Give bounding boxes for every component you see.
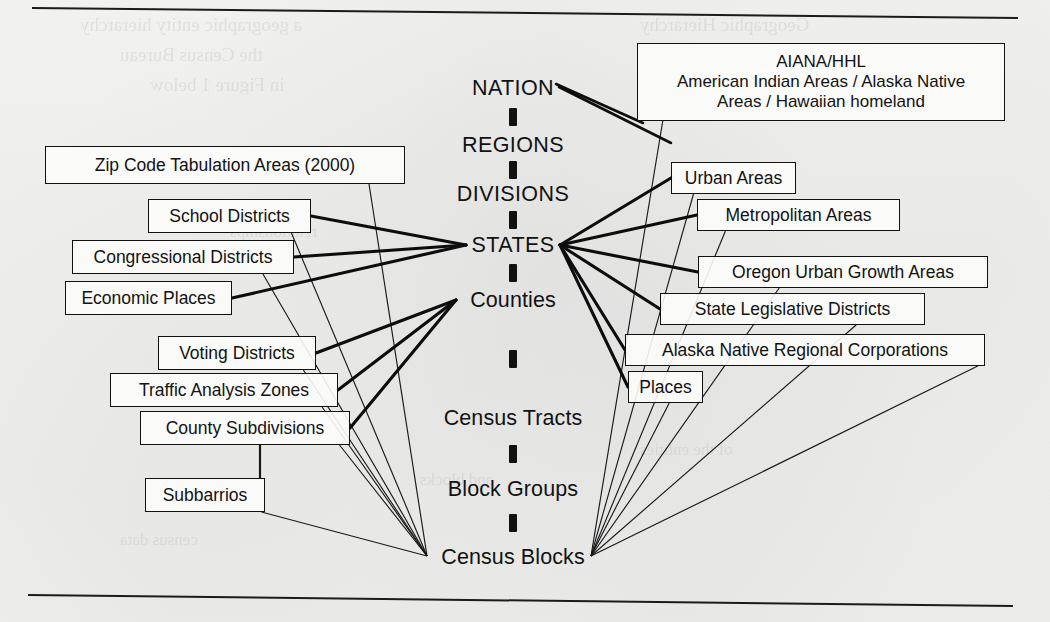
spine-dash-census_tracts-to-block_groups <box>509 445 517 463</box>
entity-box-label: Metropolitan Areas <box>726 205 872 226</box>
entity-box-congressional_districts: Congressional Districts <box>72 240 294 274</box>
spine-dash-block_groups-to-census_blocks <box>509 514 517 532</box>
hierarchy-level-states: STATES <box>472 233 555 258</box>
entity-box-economic_places: Economic Places <box>65 281 232 315</box>
spine-dash-regions-to-divisions <box>509 161 517 179</box>
hierarchy-level-census_tracts: Census Tracts <box>444 406 583 431</box>
entity-box-label: County Subdivisions <box>166 418 325 439</box>
hierarchy-level-nation: NATION <box>472 76 554 101</box>
entity-box-label: Traffic Analysis Zones <box>139 380 309 401</box>
entity-box-aiana_hhl: AIANA/HHLAmerican Indian Areas / Alaska … <box>637 43 1005 121</box>
entity-box-traffic_analysis_zones: Traffic Analysis Zones <box>110 373 338 407</box>
hierarchy-level-census_blocks: Census Blocks <box>441 545 585 570</box>
entity-box-label: Subbarrios <box>163 485 248 506</box>
entity-box-state_legislative_districts: State Legislative Districts <box>660 293 925 325</box>
entity-box-county_subdivisions: County Subdivisions <box>140 411 350 445</box>
entity-box-label: State Legislative Districts <box>695 299 891 320</box>
spine-dash-nation-to-regions <box>509 108 517 126</box>
spine-dash-divisions-to-states <box>509 211 517 229</box>
entity-box-metropolitan_areas: Metropolitan Areas <box>697 199 900 231</box>
entity-box-oregon_urban_growth_areas: Oregon Urban Growth Areas <box>698 256 988 288</box>
entity-box-label: Economic Places <box>81 288 215 309</box>
entity-box-label: Zip Code Tabulation Areas (2000) <box>95 155 355 176</box>
entity-box-line: American Indian Areas / Alaska Native <box>677 72 965 92</box>
entity-box-school_districts: School Districts <box>148 199 311 233</box>
entity-box-zip_code_tabulation_areas: Zip Code Tabulation Areas (2000) <box>45 146 405 184</box>
spine-dash-states-to-counties <box>509 264 517 282</box>
entity-box-label: Places <box>639 377 692 398</box>
entity-box-label: Voting Districts <box>179 343 295 364</box>
entity-box-label: Alaska Native Regional Corporations <box>662 340 948 361</box>
entity-box-line: AIANA/HHL <box>776 52 866 72</box>
entity-box-label: Urban Areas <box>685 168 782 189</box>
spine-dash-counties-to-census_tracts <box>509 350 517 368</box>
entity-box-alaska_native_regional_corporations: Alaska Native Regional Corporations <box>625 334 985 366</box>
entity-box-label: Congressional Districts <box>94 247 273 268</box>
hierarchy-level-block_groups: Block Groups <box>448 477 578 502</box>
entity-box-label: Oregon Urban Growth Areas <box>732 262 954 283</box>
hierarchy-level-divisions: DIVISIONS <box>457 182 569 207</box>
entity-box-voting_districts: Voting Districts <box>158 336 316 370</box>
entity-box-places: Places <box>628 371 703 403</box>
entity-box-subbarrios: Subbarrios <box>145 478 265 512</box>
hierarchy-level-counties: Counties <box>470 288 556 313</box>
hierarchy-level-regions: REGIONS <box>462 133 564 158</box>
entity-box-label: School Districts <box>169 206 290 227</box>
entity-box-urban_areas: Urban Areas <box>671 162 796 194</box>
entity-box-line: Areas / Hawaiian homeland <box>717 92 925 112</box>
